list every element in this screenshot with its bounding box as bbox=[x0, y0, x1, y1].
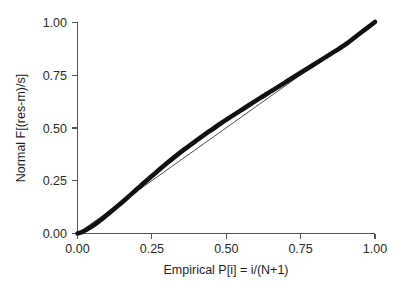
x-tick-label: 0.50 bbox=[214, 242, 238, 256]
y-tick-label: 0.25 bbox=[43, 174, 67, 188]
y-tick-label: 0.00 bbox=[43, 227, 67, 241]
x-tick-label: 1.00 bbox=[363, 242, 387, 256]
x-axis-title: Empirical P[i] = i/(N+1) bbox=[163, 263, 288, 277]
x-tick-label: 0.00 bbox=[65, 242, 89, 256]
x-tick-label: 0.75 bbox=[288, 242, 312, 256]
y-tick-label: 0.75 bbox=[43, 69, 67, 83]
y-tick-label: 0.50 bbox=[43, 122, 67, 136]
y-axis-title: Normal F[(res-m)/s] bbox=[14, 74, 28, 182]
chart-figure: 1.00 0.75 0.50 0.25 0.00 0.00 0.25 0.50 … bbox=[0, 0, 411, 284]
probability-plot-svg: 1.00 0.75 0.50 0.25 0.00 0.00 0.25 0.50 … bbox=[0, 0, 411, 284]
y-tick-label: 1.00 bbox=[43, 16, 67, 30]
x-tick-label: 0.25 bbox=[140, 242, 164, 256]
